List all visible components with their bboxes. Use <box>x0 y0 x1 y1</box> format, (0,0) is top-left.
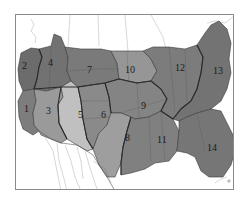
us-regions-map: 2 4 1 3 5 6 7 8 9 10 11 12 13 14 <box>16 15 234 190</box>
caribbean-outline <box>215 177 227 183</box>
map-frame: 2 4 1 3 5 6 7 8 9 10 11 12 13 14 <box>15 14 234 190</box>
region-14 <box>177 109 234 177</box>
region-label-1: 1 <box>24 103 29 114</box>
region-label-14: 14 <box>207 142 217 153</box>
region-label-9: 9 <box>141 100 146 111</box>
region-label-12: 12 <box>175 62 185 73</box>
region-label-6: 6 <box>101 109 106 120</box>
region-label-4: 4 <box>48 57 53 68</box>
region-label-5: 5 <box>78 109 83 120</box>
region-label-11: 11 <box>157 134 167 145</box>
island-marker <box>228 180 230 182</box>
region-label-7: 7 <box>87 64 92 75</box>
region-label-3: 3 <box>46 105 51 116</box>
region-label-8: 8 <box>125 132 130 143</box>
region-label-13: 13 <box>213 65 223 76</box>
region-label-10: 10 <box>125 64 135 75</box>
region-label-2: 2 <box>22 60 27 71</box>
